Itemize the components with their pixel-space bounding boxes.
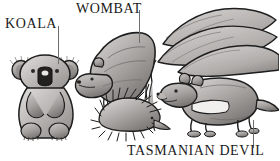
label-tasmanian-devil: TASMANIAN DEVIL [127,144,264,158]
label-wombat: WOMBAT [76,2,142,16]
leader-line-koala [58,26,59,64]
label-koala: KOALA [5,17,57,31]
koala-art [10,55,79,141]
tasmanian-devil-art [157,73,280,137]
illustration-figure: KOALA WOMBAT TASMANIAN DEVIL [0,0,279,161]
